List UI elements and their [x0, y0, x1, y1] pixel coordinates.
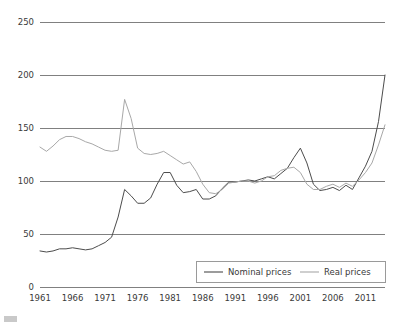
x-tick-label: 1991	[224, 293, 246, 303]
legend-label-nominal-prices: Nominal prices	[228, 267, 292, 277]
series-line-real-prices	[40, 99, 385, 193]
legend-label-real-prices: Real prices	[324, 267, 371, 277]
chart-legend: Nominal pricesReal prices	[197, 262, 386, 283]
x-tick-label: 2001	[290, 293, 312, 303]
series-line-nominal-prices	[40, 75, 385, 252]
x-tick-label: 1976	[127, 293, 149, 303]
data-series-group	[40, 75, 385, 252]
corner-marker	[4, 316, 17, 322]
x-tick-label: 1996	[257, 293, 279, 303]
y-tick-label: 250	[18, 17, 34, 27]
x-tick-label: 2011	[355, 293, 377, 303]
x-tick-label: 1966	[62, 293, 84, 303]
y-tick-label: 200	[18, 70, 34, 80]
x-tick-label: 1986	[192, 293, 214, 303]
line-chart: 050100150200250 196119661971197619811986…	[0, 0, 403, 328]
y-tick-label: 0	[29, 282, 34, 292]
x-axis-tick-labels: 1961196619711976198119861991199620012006…	[29, 293, 376, 303]
x-tick-label: 2006	[322, 293, 344, 303]
y-axis-tick-labels: 050100150200250	[18, 17, 34, 292]
x-tick-label: 1961	[29, 293, 51, 303]
chart-container: 050100150200250 196119661971197619811986…	[0, 0, 403, 328]
y-tick-label: 50	[23, 229, 34, 239]
x-tick-label: 1971	[94, 293, 116, 303]
x-tick-label: 1981	[159, 293, 181, 303]
gridlines-group	[40, 23, 385, 288]
y-tick-label: 100	[18, 176, 34, 186]
y-tick-label: 150	[18, 123, 34, 133]
